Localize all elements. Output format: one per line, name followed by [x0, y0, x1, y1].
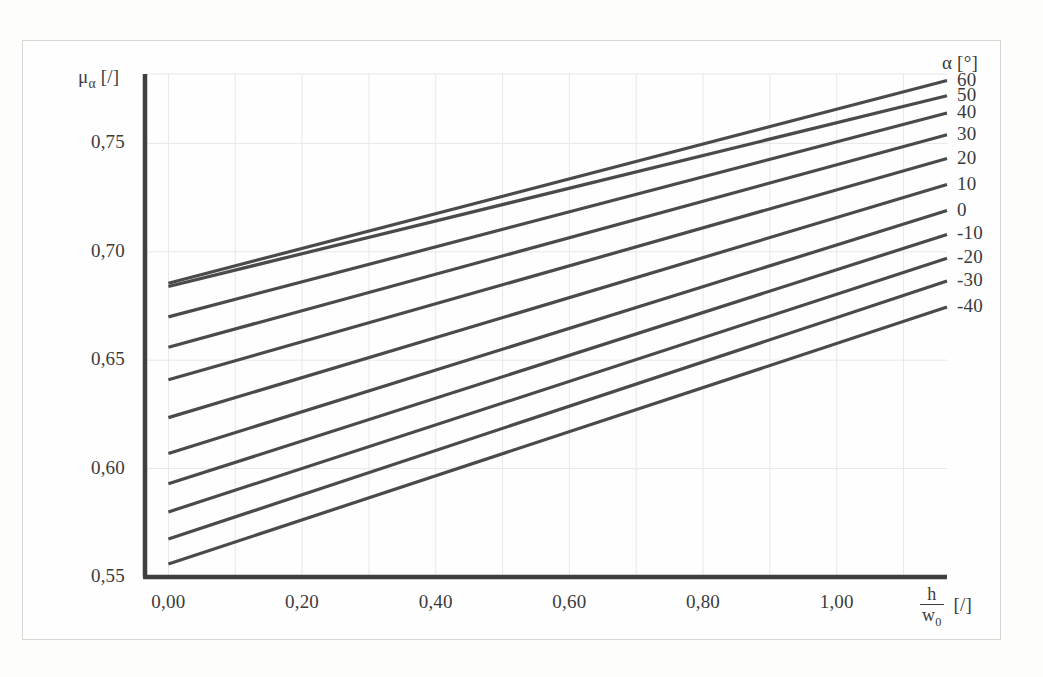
- legend-label--30: -30: [957, 269, 1007, 291]
- data-lines: [168, 81, 947, 564]
- x-axis-title-unit: [/]: [953, 594, 972, 615]
- series-line--10: [168, 234, 947, 483]
- gridlines: [145, 74, 947, 577]
- y-axis-title-subscript: α: [88, 76, 95, 91]
- x-axis-title-numerator: h: [920, 585, 944, 604]
- y-axis-title-symbol: μ: [78, 66, 88, 87]
- x-tick-label: 0,40: [396, 591, 476, 613]
- y-tick-label: 0,65: [55, 348, 125, 370]
- y-tick-label: 0,70: [55, 240, 125, 262]
- y-axis-title-unit: [/]: [101, 66, 120, 87]
- legend-label-30: 30: [957, 123, 1007, 145]
- y-tick-label: 0,75: [55, 131, 125, 153]
- x-axis-title: h w0 [/]: [920, 585, 972, 628]
- x-tick-label: 0,60: [529, 591, 609, 613]
- legend-label-40: 40: [957, 101, 1007, 123]
- legend-label-10: 10: [957, 173, 1007, 195]
- legend-label--40: -40: [957, 295, 1007, 317]
- series-line-30: [168, 135, 947, 347]
- x-tick-label: 1,00: [797, 591, 877, 613]
- x-axis-title-fraction: h w0: [920, 585, 944, 628]
- y-tick-label: 0,60: [55, 457, 125, 479]
- series-line--20: [168, 258, 947, 512]
- y-tick-label: 0,55: [55, 565, 125, 587]
- x-tick-label: 0,20: [262, 591, 342, 613]
- series-line-0: [168, 211, 947, 454]
- legend-label--10: -10: [957, 222, 1007, 244]
- series-line--30: [168, 281, 947, 539]
- x-axis-title-denominator: w0: [920, 604, 944, 628]
- legend-label-20: 20: [957, 147, 1007, 169]
- legend-label-0: 0: [957, 199, 1007, 221]
- chart-canvas: [0, 0, 1043, 677]
- axis-lines: [143, 74, 947, 577]
- series-line-10: [168, 185, 947, 418]
- y-axis-title: μα [/]: [78, 66, 119, 92]
- x-tick-label: 0,80: [663, 591, 743, 613]
- legend-label--20: -20: [957, 246, 1007, 268]
- series-line-60: [168, 81, 947, 284]
- x-tick-label: 0,00: [128, 591, 208, 613]
